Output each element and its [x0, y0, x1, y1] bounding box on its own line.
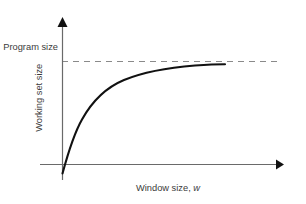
- x-axis-variable: w: [193, 183, 200, 193]
- working-set-curve: [63, 64, 226, 173]
- x-axis-label-text: Window size,: [136, 183, 191, 193]
- y-axis-label: Working set size: [34, 51, 46, 145]
- plot-canvas: [0, 0, 306, 204]
- y-axis-arrow-icon: [58, 17, 68, 27]
- x-axis-label: Window size, w: [120, 183, 216, 195]
- x-axis-arrow-icon: [276, 160, 284, 170]
- working-set-size-diagram: Program size Working set size Window siz…: [0, 0, 306, 204]
- program-size-label: Program size: [2, 42, 58, 54]
